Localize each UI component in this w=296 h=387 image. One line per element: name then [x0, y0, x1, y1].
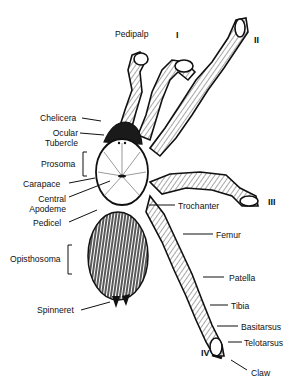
label-tibia: Tibia	[231, 301, 249, 311]
label-femur: Femur	[216, 230, 241, 240]
carapace-shape	[96, 139, 148, 205]
label-pedicel: Pedicel	[33, 218, 61, 228]
label-ocular-tubercle-line1: Ocular	[38, 128, 78, 138]
label-leg-1: I	[176, 30, 179, 40]
label-leg-3: III	[268, 197, 276, 207]
label-opisthosoma: Opisthosoma	[10, 254, 61, 264]
label-prosoma: Prosoma	[41, 159, 75, 169]
tarantula-anatomy-diagram: Pedipalp I II Chelicera Ocular Tubercle …	[0, 0, 296, 387]
label-spinneret: Spinneret	[37, 305, 74, 315]
label-leg-4: IV	[201, 348, 210, 358]
label-central-apodeme: Central Apodeme	[24, 194, 66, 214]
label-central-apodeme-line2: Apodeme	[24, 204, 66, 214]
label-basitarsus: Basitarsus	[241, 322, 281, 332]
label-ocular-tubercle: Ocular Tubercle	[38, 128, 78, 148]
label-telotarsus: Telotarsus	[244, 338, 283, 348]
opisthosoma-shape	[88, 212, 148, 308]
label-patella: Patella	[229, 273, 255, 283]
label-leg-2: II	[254, 35, 259, 45]
label-central-apodeme-line1: Central	[24, 194, 66, 204]
label-pedipalp: Pedipalp	[115, 29, 148, 39]
label-chelicera: Chelicera	[40, 113, 76, 123]
label-trochanter: Trochanter	[178, 201, 219, 211]
label-claw: Claw	[251, 368, 270, 378]
label-carapace: Carapace	[23, 179, 60, 189]
label-ocular-tubercle-line2: Tubercle	[38, 138, 78, 148]
